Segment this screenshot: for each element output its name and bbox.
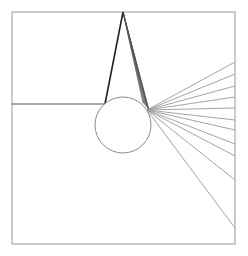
right-ray-line <box>147 62 235 110</box>
left-tangent-line <box>105 12 123 104</box>
right-ray-line <box>147 86 235 110</box>
right-ray-lines <box>147 62 235 228</box>
circle <box>95 97 151 153</box>
right-ray-line <box>147 110 235 156</box>
right-ray-line <box>147 74 235 110</box>
geometry-diagram <box>0 0 248 256</box>
